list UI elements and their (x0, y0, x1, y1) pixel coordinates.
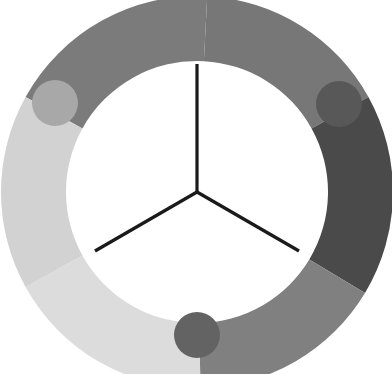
diagram-canvas (0, 0, 392, 374)
node-bottom[interactable] (174, 312, 220, 358)
node-top-left[interactable] (32, 80, 78, 126)
node-top-right[interactable] (316, 81, 362, 127)
wheel-diagram-svg (0, 0, 392, 374)
